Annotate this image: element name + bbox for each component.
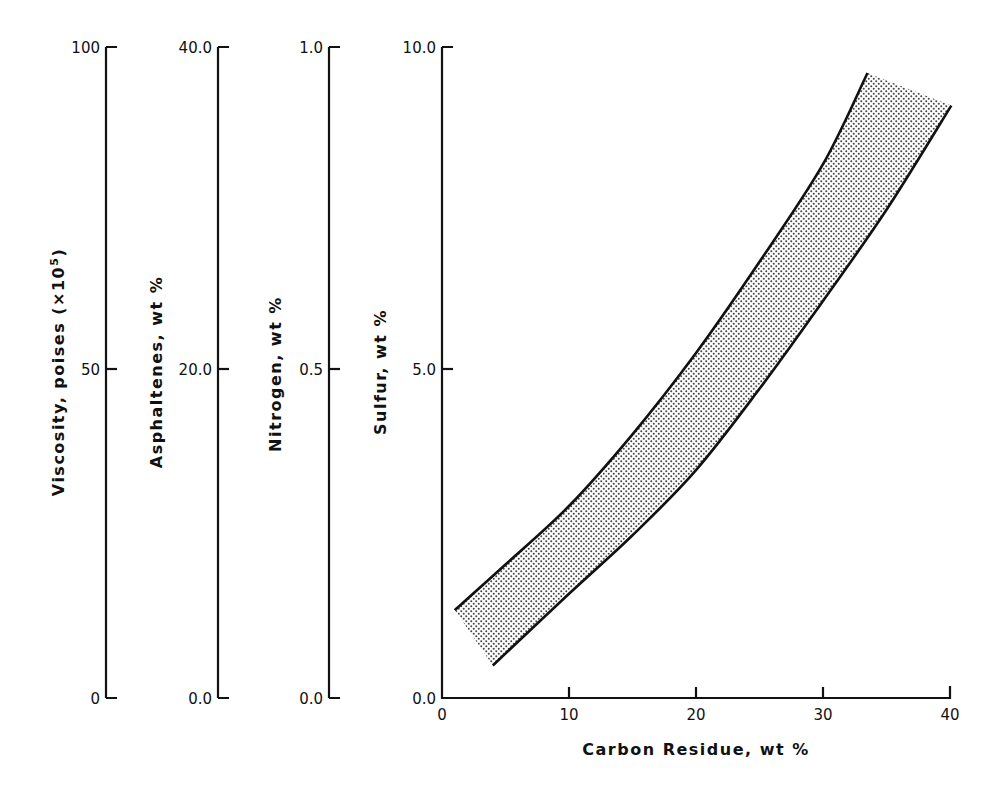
asphaltenes-axis-title: Asphaltenes, wt %	[147, 276, 166, 468]
x-tick-20: 20	[686, 706, 705, 724]
sulfur-tick-0: 0.0	[412, 690, 436, 708]
sulfur-tick-5: 5.0	[412, 361, 436, 379]
nitrogen-axis: 1.0 0.5 0.0 Nitrogen, wt %	[266, 39, 340, 708]
chart-figure: 100 50 0 Viscosity, poises (×105) 40.0 2…	[0, 0, 999, 790]
viscosity-tick-0: 0	[90, 690, 100, 708]
chart-svg: 100 50 0 Viscosity, poises (×105) 40.0 2…	[0, 0, 999, 790]
asphaltenes-tick-20: 20.0	[179, 361, 212, 379]
band-fill	[455, 73, 952, 666]
sulfur-axis-title: Sulfur, wt %	[371, 309, 390, 435]
viscosity-axis-title: Viscosity, poises (×105)	[48, 248, 69, 496]
x-tick-40: 40	[940, 706, 959, 724]
sulfur-carbon-residue-band	[455, 73, 952, 666]
asphaltenes-axis: 40.0 20.0 0.0 Asphaltenes, wt %	[147, 39, 229, 708]
nitrogen-axis-title: Nitrogen, wt %	[266, 296, 285, 452]
asphaltenes-tick-40: 40.0	[179, 39, 212, 57]
x-tick-0: 0	[437, 706, 447, 724]
x-tick-30: 30	[813, 706, 832, 724]
asphaltenes-tick-0: 0.0	[188, 690, 212, 708]
nitrogen-tick-0: 0.0	[299, 690, 323, 708]
viscosity-tick-50: 50	[81, 361, 100, 379]
sulfur-tick-10: 10.0	[403, 39, 436, 57]
x-axis-title: Carbon Residue, wt %	[582, 740, 809, 759]
upper-bound-curve	[455, 73, 868, 610]
x-tick-10: 10	[559, 706, 578, 724]
viscosity-tick-100: 100	[71, 39, 100, 57]
nitrogen-tick-1: 1.0	[299, 39, 323, 57]
viscosity-axis: 100 50 0 Viscosity, poises (×105)	[48, 39, 118, 708]
nitrogen-tick-0-5: 0.5	[299, 361, 323, 379]
